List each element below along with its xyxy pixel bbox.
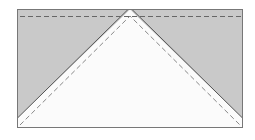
flying-geese-diagram: [0, 0, 255, 140]
